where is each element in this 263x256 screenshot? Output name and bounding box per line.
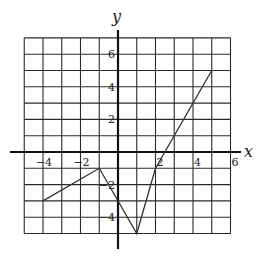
x-tick-label: −4 xyxy=(36,156,52,169)
y-tick-label: 6 xyxy=(108,48,115,61)
coordinate-plane: −4−2246 −4−2246 x y xyxy=(0,0,263,256)
x-tick-label: −2 xyxy=(73,156,89,169)
y-tick-label: 4 xyxy=(108,81,115,94)
x-tick-label: 2 xyxy=(157,156,164,169)
y-axis-label: y xyxy=(111,7,122,26)
x-tick-label: 6 xyxy=(232,156,239,169)
x-axis-label: x xyxy=(244,142,253,161)
y-tick-label: 2 xyxy=(108,113,115,126)
y-tick-label: −4 xyxy=(99,211,115,224)
x-tick-label: 4 xyxy=(194,156,201,169)
y-tick-label: −2 xyxy=(99,179,115,192)
grid-lines xyxy=(24,38,230,234)
